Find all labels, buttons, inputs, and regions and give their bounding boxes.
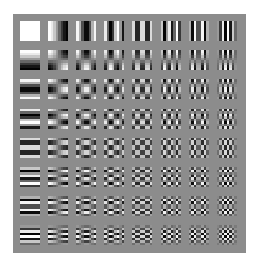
dct-basis-tile: [20, 196, 40, 216]
dct-basis-tile: [104, 138, 124, 158]
dct-basis-tile: [76, 21, 96, 41]
dct-basis-tile: [189, 21, 209, 41]
dct-basis-tile: [76, 79, 96, 99]
dct-basis-tile: [76, 225, 96, 245]
dct-basis-tile: [132, 138, 152, 158]
dct-basis-tile: [161, 21, 181, 41]
dct-basis-tile: [161, 138, 181, 158]
dct-basis-tile: [104, 167, 124, 187]
dct-basis-tile: [20, 225, 40, 245]
dct-basis-tile: [48, 225, 68, 245]
dct-basis-tile: [132, 196, 152, 216]
dct-basis-tile: [217, 196, 237, 216]
dct-basis-tile: [48, 196, 68, 216]
dct-basis-tile: [217, 225, 237, 245]
dct-basis-tile: [189, 79, 209, 99]
dct-basis-tile: [189, 138, 209, 158]
dct-basis-tile: [48, 167, 68, 187]
dct-basis-tile: [161, 225, 181, 245]
dct-basis-tile: [48, 79, 68, 99]
dct-basis-tile: [217, 167, 237, 187]
dct-basis-tile: [104, 79, 124, 99]
dct-basis-tile: [132, 21, 152, 41]
dct-basis-tile: [132, 50, 152, 70]
dct-basis-tile: [20, 109, 40, 129]
dct-basis-tile: [48, 50, 68, 70]
dct-basis-tile: [76, 50, 96, 70]
dct-basis-tile: [161, 109, 181, 129]
dct-basis-tile: [20, 21, 40, 41]
dct-basis-tile: [161, 50, 181, 70]
dct-basis-tile: [104, 109, 124, 129]
dct-basis-tile: [104, 196, 124, 216]
dct-basis-tile: [76, 167, 96, 187]
dct-basis-tile: [104, 225, 124, 245]
dct-basis-tile: [20, 79, 40, 99]
dct-basis-tile: [132, 167, 152, 187]
dct-basis-tile: [132, 109, 152, 129]
dct-basis-tile: [104, 50, 124, 70]
dct-basis-tile: [76, 109, 96, 129]
dct-basis-tile: [161, 79, 181, 99]
dct-basis-tile: [189, 109, 209, 129]
dct-basis-tile: [20, 138, 40, 158]
dct-basis-tile: [76, 138, 96, 158]
dct-basis-tile: [217, 50, 237, 70]
dct-basis-tile: [48, 21, 68, 41]
dct-basis-panel: [13, 14, 246, 253]
dct-basis-tile: [189, 196, 209, 216]
dct-basis-tile: [104, 21, 124, 41]
dct-basis-tile: [20, 167, 40, 187]
dct-basis-tile: [189, 50, 209, 70]
dct-basis-tile: [161, 167, 181, 187]
dct-basis-tile: [189, 167, 209, 187]
dct-basis-tile: [217, 21, 237, 41]
dct-basis-tile: [48, 109, 68, 129]
dct-basis-tile: [76, 196, 96, 216]
dct-basis-tile: [132, 79, 152, 99]
dct-basis-tile: [132, 225, 152, 245]
dct-basis-tile: [48, 138, 68, 158]
dct-basis-tile: [217, 138, 237, 158]
dct-basis-tile: [189, 225, 209, 245]
dct-basis-tile: [217, 79, 237, 99]
dct-basis-tile: [20, 50, 40, 70]
dct-basis-tile: [217, 109, 237, 129]
dct-basis-tile: [161, 196, 181, 216]
